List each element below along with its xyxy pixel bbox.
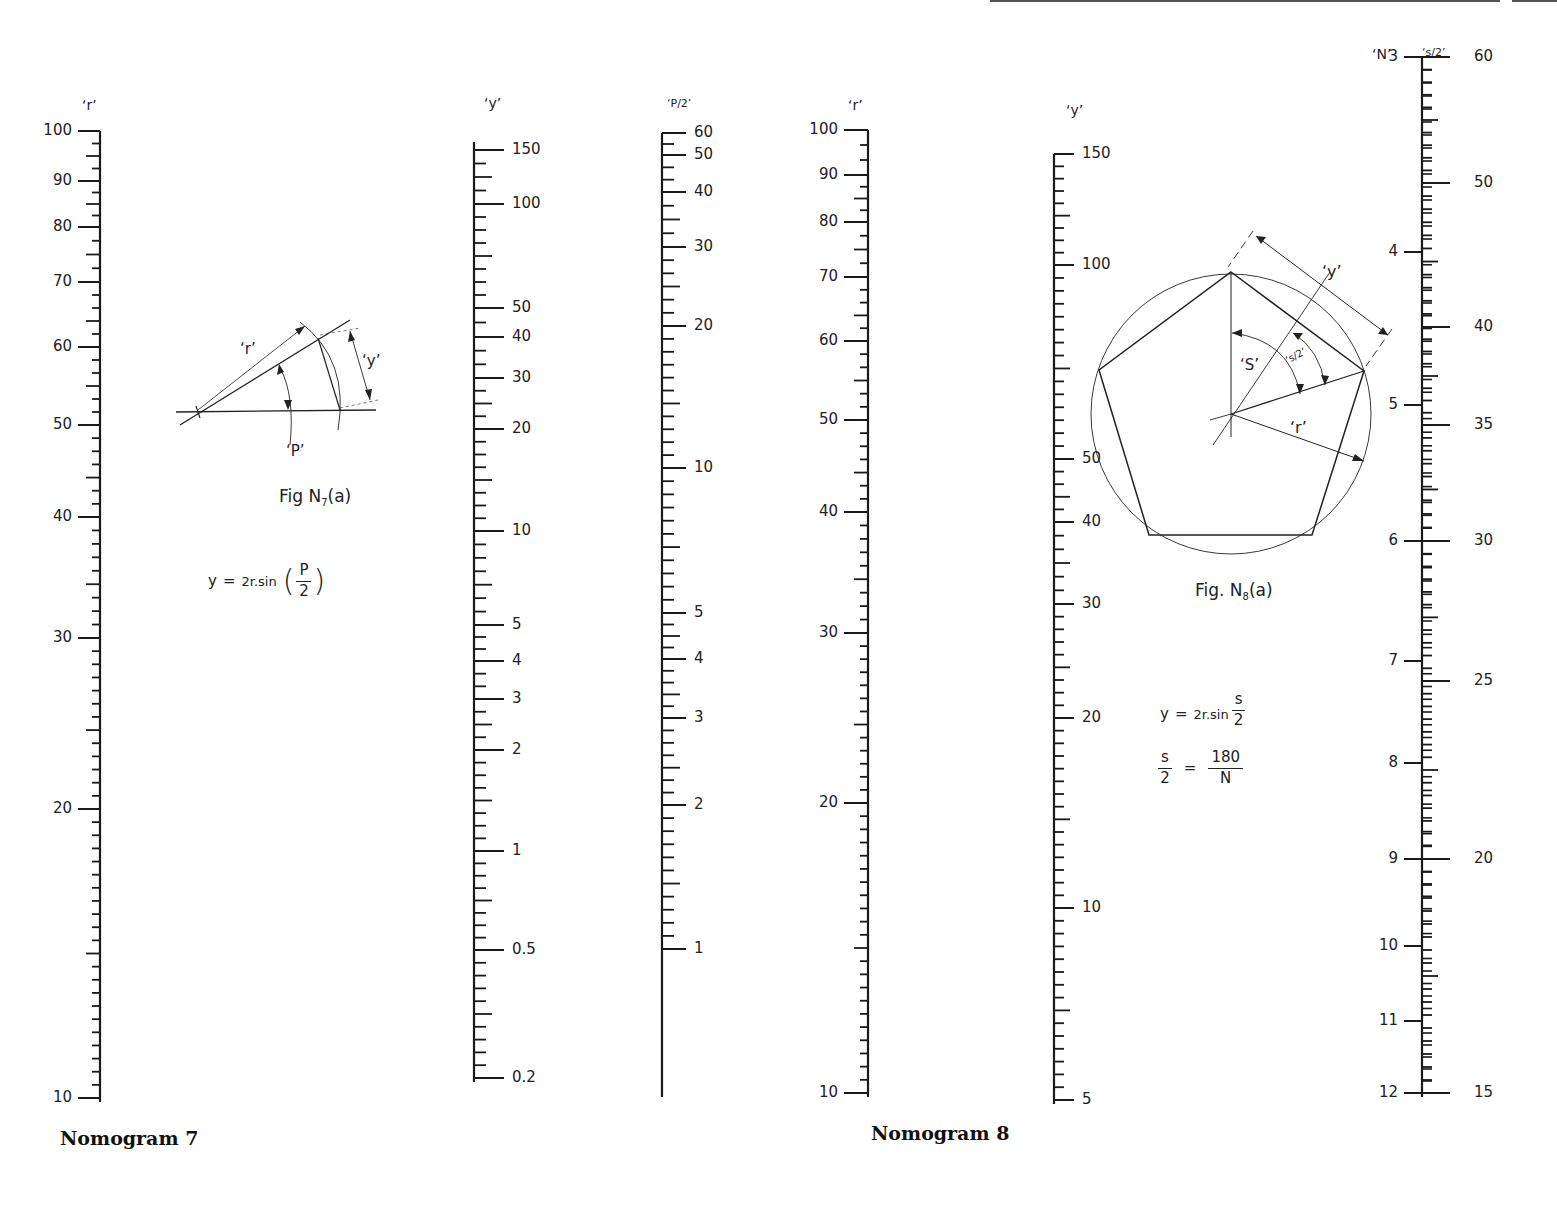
tick-label: 7 bbox=[1388, 653, 1398, 668]
eq-fraction: P 2 bbox=[296, 563, 311, 600]
tick-label: 20 bbox=[53, 801, 72, 816]
tick-label: 10 bbox=[53, 1090, 72, 1105]
tick-label: 6 bbox=[1388, 533, 1398, 548]
extension-line bbox=[1366, 329, 1392, 366]
tick-label: 100 bbox=[512, 196, 541, 211]
eq-rhs-prefix: 2r.sin bbox=[1193, 707, 1228, 722]
eq-lhs-fraction: s 2 bbox=[1158, 750, 1172, 787]
eq-rhs-fraction: 180 N bbox=[1208, 750, 1243, 787]
tick-label: 70 bbox=[819, 269, 838, 284]
tick-label: 70 bbox=[53, 274, 72, 289]
arrow-icon bbox=[1352, 454, 1364, 461]
tick-label: 60 bbox=[1474, 49, 1493, 64]
tick-label: 40 bbox=[1474, 319, 1493, 334]
eq-fraction: s 2 bbox=[1232, 692, 1246, 729]
caption-tail: (a) bbox=[1249, 580, 1273, 600]
tick-label: 50 bbox=[512, 300, 531, 315]
n7-fig-label-r: ‘r’ bbox=[240, 340, 256, 358]
tick-label: 5 bbox=[512, 617, 522, 632]
tick-label: 5 bbox=[1388, 397, 1398, 412]
tick-label: 90 bbox=[53, 173, 72, 188]
caption-main: Fig N bbox=[279, 486, 321, 506]
tick-label: 30 bbox=[1082, 596, 1101, 611]
fig-n8a-diagram bbox=[1091, 231, 1392, 554]
tick-label: 150 bbox=[512, 142, 541, 157]
eq-frac-den: 2 bbox=[1234, 711, 1244, 729]
n7-equation: y = 2r.sin ( P 2 ) bbox=[208, 563, 325, 600]
tick-label: 100 bbox=[1082, 257, 1111, 272]
tick-label: 150 bbox=[1082, 146, 1111, 161]
tick-label: 25 bbox=[1474, 673, 1493, 688]
tick-label: 35 bbox=[1474, 417, 1493, 432]
tick-label: 5 bbox=[694, 605, 704, 620]
tick-label: 30 bbox=[819, 625, 838, 640]
tick-label: 10 bbox=[694, 460, 713, 475]
n8-y-axis-title: ‘y’ bbox=[1066, 102, 1083, 118]
nomogram-8-caption: Nomogram 8 bbox=[871, 1122, 1009, 1144]
center-tick bbox=[1210, 414, 1231, 420]
tick-label: 20 bbox=[1082, 710, 1101, 725]
tick-label: 50 bbox=[1082, 451, 1101, 466]
tick-label: 4 bbox=[694, 651, 704, 666]
tick-label: 30 bbox=[1474, 533, 1493, 548]
tick-label: 3 bbox=[1388, 49, 1398, 64]
n8-s2-axis-title: ‘s/2’ bbox=[1422, 46, 1445, 59]
tick-label: 100 bbox=[43, 123, 72, 138]
n8-figure-caption: Fig. N8(a) bbox=[1195, 580, 1273, 602]
eq-rhs-prefix: 2r.sin bbox=[241, 574, 276, 589]
tick-label: 50 bbox=[694, 147, 713, 162]
arc-p bbox=[280, 368, 291, 445]
tick-label: 1 bbox=[694, 941, 704, 956]
tick-label: 8 bbox=[1388, 755, 1398, 770]
tick-label: 50 bbox=[53, 417, 72, 432]
n8-equation-1: y = 2r.sin s 2 bbox=[1160, 700, 1245, 729]
tick-label: 20 bbox=[512, 421, 531, 436]
n7-p2-axis-title: ‘P/2’ bbox=[667, 97, 691, 110]
tick-label: 2 bbox=[694, 797, 704, 812]
eq-rhs-den: N bbox=[1220, 769, 1231, 787]
tick-label: 40 bbox=[694, 184, 713, 199]
eq-lhs-num: s bbox=[1158, 750, 1172, 769]
tick-label: 90 bbox=[819, 167, 838, 182]
n8-fig-label-r: ‘r’ bbox=[1290, 418, 1307, 437]
tick-label: 50 bbox=[819, 412, 838, 427]
eq-frac-num: s bbox=[1232, 692, 1246, 711]
tick-label: 40 bbox=[819, 504, 838, 519]
extension-line bbox=[320, 328, 360, 335]
tick-label: 60 bbox=[694, 125, 713, 140]
caption-tail: (a) bbox=[328, 486, 352, 506]
n7-y-axis-title: ‘y’ bbox=[484, 95, 501, 111]
tick-label: 3 bbox=[512, 691, 522, 706]
tick-label: 40 bbox=[512, 329, 531, 344]
tick-label: 100 bbox=[809, 122, 838, 137]
tick-label: 9 bbox=[1388, 851, 1398, 866]
tick-label: 4 bbox=[512, 653, 522, 668]
tick-label: 30 bbox=[53, 630, 72, 645]
n8-fig-label-y: ‘y’ bbox=[1322, 262, 1342, 281]
r-dimension-line bbox=[198, 326, 305, 410]
tick-label: 80 bbox=[819, 214, 838, 229]
tick-label: 50 bbox=[1474, 175, 1493, 190]
fig-n7a-diagram bbox=[176, 320, 378, 445]
arrow-icon bbox=[295, 326, 305, 335]
tick-label: 5 bbox=[1082, 1092, 1092, 1107]
n7-fig-label-p: ‘P’ bbox=[286, 442, 305, 460]
extension-line bbox=[1228, 231, 1253, 267]
arrow-icon bbox=[348, 331, 355, 342]
tick-label: 4 bbox=[1388, 244, 1398, 259]
tick-label: 40 bbox=[1082, 514, 1101, 529]
tick-label: 20 bbox=[1474, 851, 1493, 866]
n8-fig-label-s: ‘S’ bbox=[1240, 356, 1259, 374]
tick-label: 0.5 bbox=[512, 942, 536, 957]
eq-frac-den: 2 bbox=[299, 582, 309, 600]
radius-to-vertex bbox=[1231, 371, 1364, 414]
eq-rhs-num: 180 bbox=[1208, 750, 1243, 769]
n7-fig-label-y: ‘y’ bbox=[362, 352, 380, 370]
arrow-icon bbox=[365, 389, 372, 400]
tick-label: 0.2 bbox=[512, 1070, 536, 1085]
nomogram-canvas bbox=[0, 0, 1557, 1210]
tick-label: 2 bbox=[512, 742, 522, 757]
eq-lhs-den: 2 bbox=[1160, 769, 1170, 787]
tick-label: 80 bbox=[53, 219, 72, 234]
eq-equals: = bbox=[223, 572, 236, 590]
